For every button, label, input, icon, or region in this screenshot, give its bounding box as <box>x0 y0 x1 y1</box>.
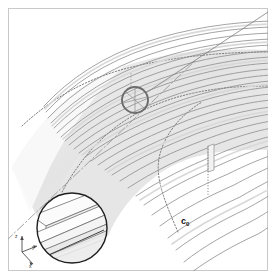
axis-label-y: y <box>32 244 35 250</box>
inset-arrow-head <box>42 256 50 261</box>
right-edge-step <box>208 144 214 172</box>
c0-label: c0 <box>181 216 189 227</box>
shell-drawing-canvas <box>0 0 276 279</box>
technical-figure: c0 z y x <box>0 0 276 279</box>
axis-label-z: z <box>15 233 18 239</box>
axis-label-x: x <box>29 263 32 269</box>
axes-triad <box>20 236 37 266</box>
axis-z-arrow <box>20 236 24 240</box>
c0-label-subscript: 0 <box>186 221 189 227</box>
